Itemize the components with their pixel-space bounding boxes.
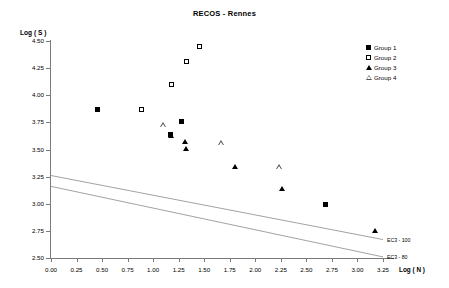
legend-item-label: Group 4 — [374, 74, 396, 81]
y-tick-label: 3.25 — [12, 173, 44, 180]
data-point — [182, 139, 188, 144]
data-point — [139, 107, 144, 112]
legend-item-3[interactable]: Group 3 — [364, 62, 444, 72]
x-tick-mark — [255, 258, 256, 262]
chart-legend: Group 1Group 2Group 3Group 4 — [364, 42, 444, 82]
legend-item-label: Group 3 — [374, 64, 396, 71]
x-axis-title: Log ( N ) — [399, 266, 425, 273]
data-point — [372, 228, 378, 233]
data-point — [184, 59, 189, 64]
reference-line-label: EC3 - 100 — [387, 237, 410, 243]
data-point — [279, 186, 285, 191]
x-tick-mark — [281, 258, 282, 262]
y-tick-label: 3.00 — [12, 200, 44, 207]
data-point — [323, 202, 328, 207]
legend-marker-icon — [364, 53, 373, 62]
reference-line-label: EC3 - 80 — [387, 254, 407, 260]
data-point — [218, 140, 224, 145]
legend-marker-glyph — [366, 75, 372, 80]
data-point — [160, 122, 166, 127]
plot-area — [51, 41, 383, 258]
legend-marker-glyph — [366, 45, 371, 50]
x-tick-mark — [179, 258, 180, 262]
data-point — [232, 164, 238, 169]
y-tick-label: 4.25 — [12, 64, 44, 71]
data-point — [168, 133, 174, 138]
legend-item-4[interactable]: Group 4 — [364, 72, 444, 82]
x-tick-mark — [204, 258, 205, 262]
legend-marker-icon — [364, 43, 373, 52]
y-tick-label: 4.50 — [12, 37, 44, 44]
data-point — [183, 146, 189, 151]
y-tick-label: 2.75 — [12, 227, 44, 234]
chart-title: RECOS - Rennes — [0, 9, 449, 18]
x-tick-label: 3.25 — [366, 266, 400, 273]
y-axis-title: Log ( S ) — [20, 29, 46, 36]
data-point — [197, 44, 202, 49]
x-tick-mark — [51, 258, 52, 262]
legend-item-1[interactable]: Group 1 — [364, 42, 444, 52]
y-tick-label: 2.50 — [12, 254, 44, 261]
x-tick-mark — [77, 258, 78, 262]
data-point — [169, 82, 174, 87]
x-tick-mark — [306, 258, 307, 262]
x-tick-mark — [230, 258, 231, 262]
x-tick-mark — [332, 258, 333, 262]
y-tick-label: 3.75 — [12, 118, 44, 125]
data-point — [179, 119, 184, 124]
legend-marker-glyph — [366, 55, 371, 60]
y-tick-label: 3.50 — [12, 146, 44, 153]
x-tick-mark — [102, 258, 103, 262]
y-tick-label: 4.00 — [12, 91, 44, 98]
data-point — [95, 107, 100, 112]
legend-marker-icon — [364, 63, 373, 72]
chart-container: RECOS - Rennes Log ( S ) Log ( N ) 2.502… — [0, 0, 449, 288]
legend-marker-glyph — [366, 65, 372, 70]
x-tick-mark — [383, 258, 384, 262]
legend-item-2[interactable]: Group 2 — [364, 52, 444, 62]
legend-item-label: Group 2 — [374, 54, 396, 61]
legend-marker-icon — [364, 73, 373, 82]
x-tick-mark — [357, 258, 358, 262]
x-tick-mark — [153, 258, 154, 262]
data-point — [276, 164, 282, 169]
legend-item-label: Group 1 — [374, 44, 396, 51]
x-tick-mark — [128, 258, 129, 262]
